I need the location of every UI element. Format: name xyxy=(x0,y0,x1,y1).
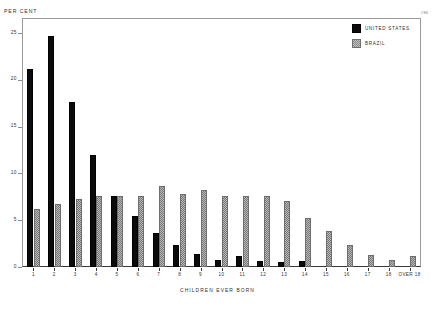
bar-united-states xyxy=(132,216,138,267)
legend-swatch-united-states xyxy=(352,24,361,33)
bar-brazil xyxy=(117,196,123,267)
bar-brazil xyxy=(264,196,270,267)
x-axis-tick-label: 18 xyxy=(386,272,392,277)
x-axis-tick-mark xyxy=(201,268,202,271)
y-axis-label: PER CENT xyxy=(4,8,37,14)
bar-united-states xyxy=(153,233,159,267)
y-axis-tick-label: 5 xyxy=(14,217,17,222)
bar-brazil xyxy=(222,196,228,267)
x-axis-tick-mark xyxy=(33,268,34,271)
bar-brazil xyxy=(284,201,290,267)
y-axis-tick-mark xyxy=(18,33,22,34)
legend-item-united-states: UNITED STATES xyxy=(352,24,410,33)
x-axis-tick-label: 2 xyxy=(53,272,56,277)
bar-brazil xyxy=(34,209,40,267)
y-axis-tick-mark xyxy=(18,80,22,81)
x-axis-tick-label: 16 xyxy=(344,272,350,277)
x-axis-tick-label: 9 xyxy=(199,272,202,277)
bar-brazil xyxy=(55,204,61,267)
bar-brazil xyxy=(368,255,374,267)
x-axis-tick-label: 6 xyxy=(136,272,139,277)
y-axis-tick-label: 10 xyxy=(11,170,17,175)
bar-group xyxy=(295,19,316,267)
bar-united-states xyxy=(194,254,200,267)
y-axis-tick-label: 0 xyxy=(14,264,17,269)
x-axis-tick-mark xyxy=(138,268,139,271)
bar-brazil xyxy=(410,256,416,267)
x-axis-tick-mark xyxy=(410,268,411,271)
x-axis-tick-label: 8 xyxy=(178,272,181,277)
bar-group xyxy=(148,19,169,267)
bar-group xyxy=(211,19,232,267)
bar-brazil xyxy=(159,186,165,267)
x-axis-tick-label: 3 xyxy=(74,272,77,277)
plot-area xyxy=(23,19,420,267)
y-axis-tick-mark xyxy=(18,173,22,174)
x-axis-tick-label: 17 xyxy=(365,272,371,277)
x-axis-tick-label: 5 xyxy=(116,272,119,277)
bar-group xyxy=(86,19,107,267)
x-axis-tick-mark xyxy=(305,268,306,271)
bar-united-states xyxy=(257,261,263,267)
y-axis-tick-mark xyxy=(18,127,22,128)
x-axis-tick-label: 15 xyxy=(323,272,329,277)
bar-group xyxy=(44,19,65,267)
x-axis-tick-mark xyxy=(159,268,160,271)
bar-group xyxy=(336,19,357,267)
bar-united-states xyxy=(278,262,284,267)
bar-group xyxy=(232,19,253,267)
bar-group xyxy=(274,19,295,267)
y-axis-tick-label: 25 xyxy=(11,30,17,35)
x-axis-ticks: 123456789101112131415161718OVER 18 xyxy=(23,268,420,282)
bar-united-states xyxy=(27,69,33,267)
x-axis-tick-label: 7 xyxy=(157,272,160,277)
bar-group xyxy=(107,19,128,267)
bar-brazil xyxy=(138,196,144,267)
y-axis-tick-label: 20 xyxy=(11,76,17,81)
legend-label-brazil: BRAZIL xyxy=(365,41,385,46)
x-axis-tick-mark xyxy=(347,268,348,271)
x-axis-tick-mark xyxy=(242,268,243,271)
bar-united-states xyxy=(173,245,179,267)
bar-brazil xyxy=(201,190,207,267)
x-axis-tick-mark xyxy=(263,268,264,271)
bar-group xyxy=(253,19,274,267)
corner-mark-label: #90 xyxy=(421,11,428,15)
x-axis-tick-label: 11 xyxy=(240,272,246,277)
bar-brazil xyxy=(389,260,395,267)
chart-legend: UNITED STATES BRAZIL xyxy=(352,24,410,54)
y-axis-tick-mark xyxy=(18,267,22,268)
legend-label-united-states: UNITED STATES xyxy=(365,26,410,31)
bar-united-states xyxy=(69,102,75,267)
x-axis-tick-label: 12 xyxy=(260,272,266,277)
y-axis-tick-mark xyxy=(18,220,22,221)
bar-group xyxy=(65,19,86,267)
bar-brazil xyxy=(347,245,353,267)
x-axis-tick-label: 14 xyxy=(302,272,308,277)
x-axis-tick-mark xyxy=(389,268,390,271)
bar-united-states xyxy=(48,36,54,267)
x-axis-tick-mark xyxy=(368,268,369,271)
bar-united-states xyxy=(215,260,221,267)
bar-group xyxy=(378,19,399,267)
x-axis-tick-label: 1 xyxy=(32,272,35,277)
x-axis-tick-label: 10 xyxy=(219,272,225,277)
bar-united-states xyxy=(111,196,117,267)
bar-brazil xyxy=(243,196,249,267)
bar-group xyxy=(357,19,378,267)
bar-united-states xyxy=(299,261,305,267)
bar-brazil xyxy=(76,199,82,267)
bar-group xyxy=(316,19,337,267)
bar-group xyxy=(23,19,44,267)
bar-group xyxy=(190,19,211,267)
bar-brazil xyxy=(96,196,102,267)
x-axis-tick-mark xyxy=(326,268,327,271)
x-axis-tick-label: OVER 18 xyxy=(398,272,420,277)
x-axis-tick-mark xyxy=(96,268,97,271)
bar-brazil xyxy=(180,194,186,267)
x-axis-tick-mark xyxy=(54,268,55,271)
bar-brazil xyxy=(305,218,311,267)
bar-brazil xyxy=(326,231,332,267)
x-axis-tick-mark xyxy=(284,268,285,271)
bar-group xyxy=(127,19,148,267)
